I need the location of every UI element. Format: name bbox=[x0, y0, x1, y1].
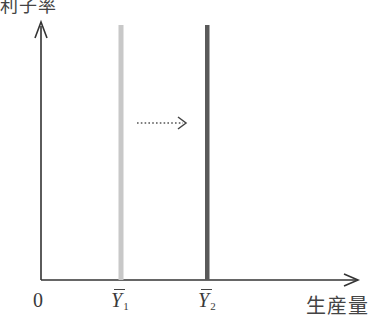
y2-vertical-line bbox=[205, 25, 210, 280]
y2-symbol: Y bbox=[198, 289, 209, 311]
origin-label: 0 bbox=[33, 289, 43, 312]
y1-label: Y1 bbox=[111, 289, 129, 312]
y1-subscript: 1 bbox=[123, 300, 129, 312]
y2-label: Y2 bbox=[198, 289, 216, 312]
y2-subscript: 2 bbox=[210, 300, 216, 312]
y1-vertical-line bbox=[119, 25, 124, 280]
y1-symbol: Y bbox=[111, 289, 122, 311]
diagram-canvas bbox=[0, 0, 387, 324]
x-axis-label: 生産量 bbox=[306, 290, 369, 319]
bar-accent bbox=[201, 289, 212, 290]
bar-accent bbox=[114, 289, 125, 290]
